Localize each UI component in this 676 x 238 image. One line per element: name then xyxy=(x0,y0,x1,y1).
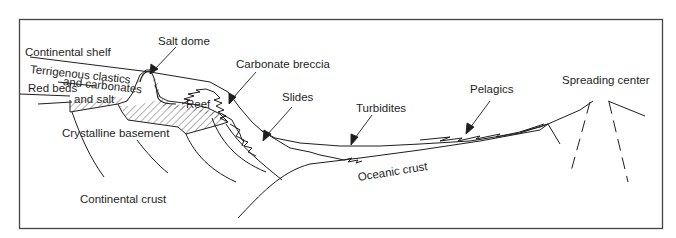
fault-line-5 xyxy=(212,118,266,172)
label-turbidites: Turbidites xyxy=(356,103,406,115)
geologic-cross-section-diagram: Continental shelf Salt dome Terrigenous … xyxy=(0,0,676,238)
label-red-beds: Red beds xyxy=(28,83,77,95)
ridge-flank-line xyxy=(520,101,593,144)
fault-line-1 xyxy=(72,112,104,177)
label-crystalline-basement: Crystalline basement xyxy=(62,128,169,140)
red-beds-line xyxy=(20,94,72,104)
label-carbonate-breccia: Carbonate breccia xyxy=(236,59,330,71)
turbidite-base-line xyxy=(262,131,362,163)
label-slides: Slides xyxy=(282,92,313,104)
label-spreading-center: Spreading center xyxy=(562,75,650,87)
label-continental-shelf: Continental shelf xyxy=(25,47,111,59)
label-continental-crust: Continental crust xyxy=(80,194,166,206)
fault-line-2 xyxy=(137,140,168,173)
label-pelagics: Pelagics xyxy=(470,84,513,96)
label-and-salt: and salt xyxy=(74,94,114,106)
fault-line-3 xyxy=(186,134,236,182)
label-reef: Reef xyxy=(186,99,210,111)
ridge-right-flank xyxy=(608,101,645,116)
label-salt-dome: Salt dome xyxy=(158,36,210,48)
spreading-center-dashed-right xyxy=(609,102,628,182)
